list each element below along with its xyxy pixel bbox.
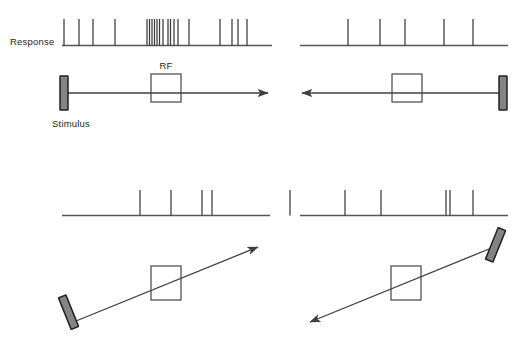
stimulus-diagram-bottom-right bbox=[310, 228, 506, 322]
stimulus-bar bbox=[58, 295, 78, 330]
stimulus-diagram-bottom-left bbox=[58, 247, 258, 329]
receptive-field-box bbox=[151, 266, 181, 300]
spike-group bbox=[140, 190, 290, 216]
stimulus-bar bbox=[499, 76, 507, 110]
motion-arrow bbox=[310, 249, 489, 322]
stimulus-diagram-top-right bbox=[302, 74, 507, 110]
rf-label: RF bbox=[159, 60, 172, 71]
raster-bottom-right bbox=[300, 190, 508, 216]
spike-group bbox=[348, 19, 473, 46]
raster-top-right bbox=[300, 19, 508, 46]
response-label: Response bbox=[10, 36, 54, 47]
stimulus-diagram-top-left: RF bbox=[60, 60, 268, 110]
spike-group bbox=[64, 19, 247, 46]
panel-bottom-right bbox=[300, 190, 508, 322]
motion-arrow bbox=[76, 247, 258, 321]
raster-bottom-left bbox=[62, 190, 290, 216]
panel-bottom-left bbox=[58, 190, 290, 329]
spike-group bbox=[345, 190, 473, 216]
receptive-field-box bbox=[392, 74, 422, 102]
panel-top-left: Response bbox=[10, 19, 272, 129]
receptive-field-box bbox=[151, 74, 181, 102]
panel-top-right bbox=[300, 19, 508, 110]
figure-root: Response bbox=[0, 0, 528, 348]
stimulus-label: Stimulus bbox=[52, 118, 90, 129]
stimulus-bar bbox=[485, 228, 505, 263]
neural-response-figure: Response bbox=[0, 0, 528, 348]
raster-top-left bbox=[62, 19, 272, 46]
stimulus-bar bbox=[60, 76, 68, 110]
